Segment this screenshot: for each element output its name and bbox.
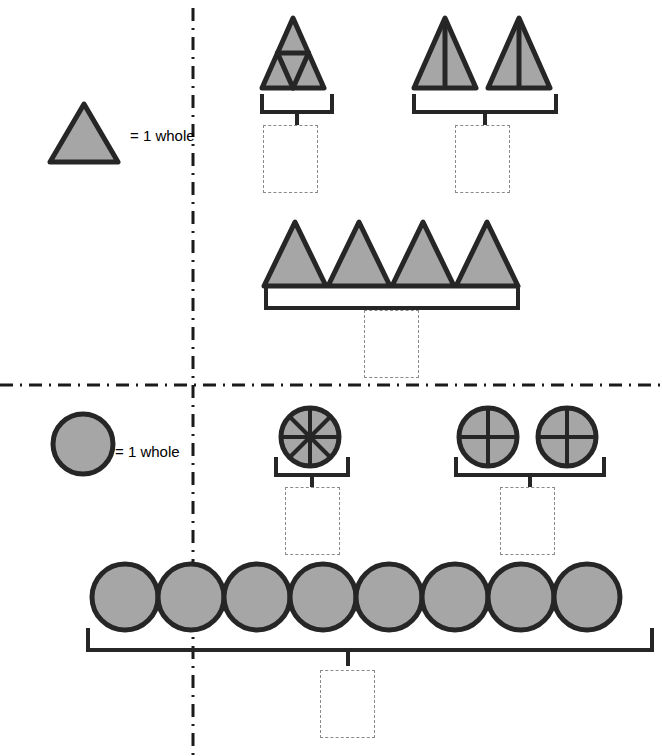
triangle-whole-1 <box>264 222 326 286</box>
triangle-whole-3 <box>392 222 454 286</box>
triangle-whole-4 <box>456 222 518 286</box>
circle-whole-8 <box>554 564 620 630</box>
worksheet-page: = 1 whole = 1 whole <box>0 0 662 756</box>
circle-wholes-shapes <box>88 560 616 634</box>
circle-whole-7 <box>488 564 554 630</box>
answer-box-circle-fourths[interactable] <box>500 487 555 555</box>
triangle-half-1 <box>414 18 476 88</box>
brace-circle-wholes <box>84 626 660 668</box>
triangle-whole-2 <box>328 222 390 286</box>
answer-box-triangle-fourths[interactable] <box>263 125 318 193</box>
circle-whole-4 <box>290 564 356 630</box>
triangle-fourths-shape <box>258 14 328 96</box>
answer-box-circle-eighths[interactable] <box>285 487 340 555</box>
circle-group-wholes <box>88 560 616 634</box>
triangle-group-halves <box>412 14 552 96</box>
brace-circle-eighths <box>272 455 352 491</box>
circle-whole-3 <box>224 564 290 630</box>
circle-whole-2 <box>158 564 224 630</box>
brace-triangle-fourths <box>258 92 336 128</box>
triangle-legend <box>46 100 126 166</box>
answer-box-triangle-halves[interactable] <box>455 125 510 193</box>
circle-legend <box>48 409 118 479</box>
circle-whole-1 <box>92 564 158 630</box>
triangle-halves-shapes <box>412 14 552 96</box>
brace-triangle-halves <box>410 92 560 128</box>
answer-box-circle-wholes[interactable] <box>320 670 375 738</box>
triangle-legend-icon <box>46 100 126 166</box>
triangle-legend-label: = 1 whole <box>130 127 195 144</box>
triangle-half-2 <box>488 18 550 88</box>
brace-circle-fourths <box>452 455 608 491</box>
triangle-group-wholes <box>262 218 522 294</box>
circle-whole-5 <box>356 564 422 630</box>
circle-legend-icon <box>48 409 118 479</box>
circle-whole-6 <box>422 564 488 630</box>
circle-legend-label: = 1 whole <box>115 443 180 460</box>
triangle-group-fourths <box>258 14 328 96</box>
answer-box-triangle-wholes[interactable] <box>364 310 419 378</box>
triangle-wholes-shapes <box>262 218 522 294</box>
